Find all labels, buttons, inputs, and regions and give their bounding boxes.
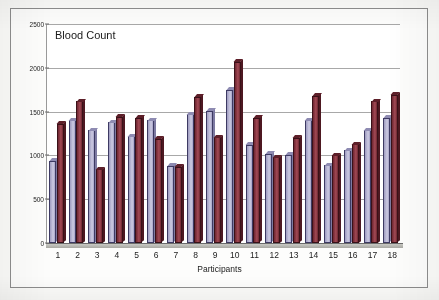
x-tick-label-3: 3 — [89, 250, 105, 260]
bar-series1-14 — [305, 120, 312, 243]
y-tick-label-2000: 2000 — [0, 64, 44, 71]
bar-series1-7 — [167, 166, 174, 243]
x-tick-label-5: 5 — [129, 250, 145, 260]
bar-face — [312, 96, 319, 243]
x-tick-label-7: 7 — [168, 250, 184, 260]
bar-group — [321, 24, 341, 243]
bar-series1-1 — [49, 161, 56, 243]
bar-face — [214, 137, 221, 243]
bar-chart: Blood Count 05001000150020002500 1234567… — [0, 0, 439, 300]
bar-series1-18 — [383, 118, 390, 243]
y-tick-label-1500: 1500 — [0, 108, 44, 115]
bar-face — [391, 95, 398, 243]
bar-face — [88, 130, 95, 243]
bar-series2-4 — [116, 117, 123, 243]
bar-face — [96, 169, 103, 243]
x-tick-label-9: 9 — [207, 250, 223, 260]
bar-face — [206, 111, 213, 243]
bar-face — [371, 101, 378, 243]
bar-series2-7 — [175, 167, 182, 243]
bar-top-face — [77, 99, 86, 102]
bar-series1-8 — [187, 114, 194, 243]
x-tick-label-8: 8 — [188, 250, 204, 260]
bar-series2-5 — [135, 118, 142, 243]
x-tick-label-2: 2 — [70, 250, 86, 260]
bar-face — [293, 138, 300, 243]
x-tick-label-4: 4 — [109, 250, 125, 260]
bar-group — [361, 24, 381, 243]
bar-series2-1 — [57, 124, 64, 243]
bar-series1-10 — [226, 90, 233, 243]
bar-face — [285, 155, 292, 243]
bar-series2-2 — [76, 101, 83, 243]
bar-series2-18 — [391, 95, 398, 243]
bar-group — [125, 24, 145, 243]
bar-face — [226, 90, 233, 243]
bar-series1-6 — [147, 120, 154, 243]
bar-group — [203, 24, 223, 243]
bar-series2-9 — [214, 137, 221, 243]
x-axis-label: Participants — [0, 264, 439, 274]
bar-face — [383, 118, 390, 243]
bar-face — [324, 165, 331, 243]
axis-floor — [46, 243, 403, 248]
bar-face — [128, 136, 135, 243]
bar-series2-11 — [253, 118, 260, 243]
bar-series1-12 — [265, 154, 272, 243]
bar-series2-8 — [194, 97, 201, 243]
bar-face — [253, 118, 260, 243]
bar-series1-9 — [206, 111, 213, 243]
bar-face — [305, 120, 312, 243]
bar-group — [380, 24, 400, 243]
bar-series2-17 — [371, 101, 378, 243]
bar-series1-13 — [285, 155, 292, 243]
bar-face — [344, 150, 351, 243]
bar-face — [49, 161, 56, 243]
bar-series1-15 — [324, 165, 331, 243]
bar-top-face — [89, 128, 98, 131]
x-tick-label-16: 16 — [345, 250, 361, 260]
bar-series1-17 — [364, 130, 371, 243]
bar-group — [302, 24, 322, 243]
bar-face — [332, 155, 339, 243]
bar-face — [135, 118, 142, 243]
y-tick-label-0: 0 — [0, 240, 44, 247]
bar-face — [116, 117, 123, 243]
bar-face — [155, 139, 162, 243]
bar-group — [243, 24, 263, 243]
bar-series2-10 — [234, 62, 241, 243]
bar-group — [262, 24, 282, 243]
bar-face — [167, 166, 174, 243]
x-tick-label-17: 17 — [365, 250, 381, 260]
y-tick-label-2500: 2500 — [0, 21, 44, 28]
bar-face — [175, 167, 182, 243]
bar-face — [364, 130, 371, 243]
bar-group — [66, 24, 86, 243]
bar-series2-6 — [155, 139, 162, 243]
x-tick-label-6: 6 — [148, 250, 164, 260]
bar-face — [76, 101, 83, 243]
bar-face — [147, 120, 154, 243]
bar-series2-14 — [312, 96, 319, 243]
bar-series2-16 — [352, 144, 359, 243]
bar-group — [341, 24, 361, 243]
bar-group — [105, 24, 125, 243]
x-tick-label-12: 12 — [266, 250, 282, 260]
bar-face — [273, 157, 280, 243]
bar-group — [46, 24, 66, 243]
bar-series2-13 — [293, 138, 300, 243]
bar-group — [144, 24, 164, 243]
y-tick-label-500: 500 — [0, 196, 44, 203]
x-tick-label-15: 15 — [325, 250, 341, 260]
bar-series1-16 — [344, 150, 351, 243]
x-tick-label-18: 18 — [384, 250, 400, 260]
bar-top-face — [372, 99, 381, 102]
bar-face — [234, 62, 241, 243]
bar-group — [223, 24, 243, 243]
bar-series1-11 — [246, 145, 253, 243]
bar-face — [187, 114, 194, 243]
bar-series1-4 — [108, 122, 115, 243]
x-tick-label-13: 13 — [286, 250, 302, 260]
bar-series2-12 — [273, 157, 280, 243]
bar-group — [164, 24, 184, 243]
